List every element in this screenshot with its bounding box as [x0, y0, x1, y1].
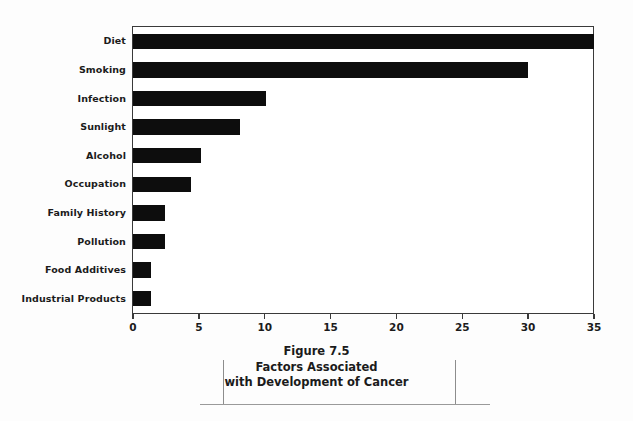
bar-fill	[133, 119, 240, 135]
caption-text: Figure 7.5 Factors Associated with Devel…	[0, 344, 633, 391]
bar-occupation	[133, 177, 594, 193]
caption-line-1: Factors Associated	[0, 360, 633, 376]
x-tick-label-35: 35	[587, 321, 602, 333]
bars-layer	[133, 27, 594, 313]
x-tick-mark	[264, 314, 266, 319]
x-tick-mark	[462, 314, 464, 319]
bar-fill	[133, 177, 191, 193]
bar-pollution	[133, 234, 594, 250]
x-tick-mark	[330, 314, 332, 319]
x-tick-mark	[132, 314, 134, 319]
caption-figure-number: Figure 7.5	[0, 344, 633, 360]
bar-sunlight	[133, 119, 594, 135]
bar-fill	[133, 34, 594, 50]
x-tick-label-15: 15	[323, 321, 338, 333]
bar-fill	[133, 205, 165, 221]
bar-industrial-products	[133, 291, 594, 307]
x-tick-mark	[527, 314, 529, 319]
x-tick-label-10: 10	[257, 321, 272, 333]
bar-smoking	[133, 62, 594, 78]
figure-caption: Figure 7.5 Factors Associated with Devel…	[0, 344, 633, 421]
bar-fill	[133, 234, 165, 250]
figure-container: DietSmokingInfectionSunlightAlcoholOccup…	[0, 0, 633, 421]
x-tick-label-20: 20	[389, 321, 404, 333]
category-label-food-additives: Food Additives	[0, 264, 126, 275]
caption-line-2: with Development of Cancer	[0, 375, 633, 391]
x-tick-label-0: 0	[129, 321, 136, 333]
x-tick-label-30: 30	[521, 321, 536, 333]
x-tick-mark	[396, 314, 398, 319]
category-label-sunlight: Sunlight	[0, 121, 126, 132]
category-label-pollution: Pollution	[0, 236, 126, 247]
category-label-alcohol: Alcohol	[0, 150, 126, 161]
x-tick-label-25: 25	[455, 321, 470, 333]
x-axis: 05101520253035	[0, 314, 633, 342]
x-tick-mark	[593, 314, 595, 319]
bar-fill	[133, 62, 528, 78]
category-label-diet: Diet	[0, 35, 126, 46]
x-tick-mark	[198, 314, 200, 319]
bar-family-history	[133, 205, 594, 221]
category-label-smoking: Smoking	[0, 64, 126, 75]
bar-infection	[133, 91, 594, 107]
x-tick-label-5: 5	[195, 321, 202, 333]
category-labels: DietSmokingInfectionSunlightAlcoholOccup…	[0, 27, 126, 313]
category-label-infection: Infection	[0, 93, 126, 104]
category-label-industrial-products: Industrial Products	[0, 293, 126, 304]
bar-food-additives	[133, 262, 594, 278]
bar-fill	[133, 291, 151, 307]
bar-fill	[133, 148, 201, 164]
bar-chart: DietSmokingInfectionSunlightAlcoholOccup…	[0, 0, 633, 340]
caption-rule-bottom	[200, 404, 490, 405]
caption-rule-right	[455, 360, 456, 405]
bar-fill	[133, 91, 266, 107]
bar-fill	[133, 262, 151, 278]
bar-alcohol	[133, 148, 594, 164]
category-label-family-history: Family History	[0, 207, 126, 218]
caption-rule-left	[223, 360, 224, 405]
bar-diet	[133, 34, 594, 50]
category-label-occupation: Occupation	[0, 178, 126, 189]
